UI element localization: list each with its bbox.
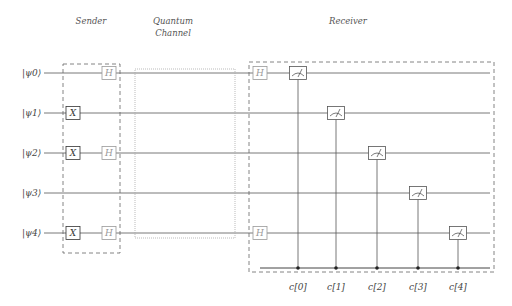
qubit-label: |ψ3⟩ [22, 188, 41, 199]
classical-bit-label: c[4] [449, 282, 467, 292]
bus-dot [375, 266, 379, 270]
qubit-label: |ψ1⟩ [22, 108, 41, 119]
quantum-circuit-diagram: Sender Quantum Channel Receiver |ψ0⟩|ψ1⟩… [0, 0, 512, 306]
section-title-channel-line1: Quantum [153, 16, 193, 26]
h-gate: H [253, 67, 267, 80]
qubit-label: |ψ4⟩ [22, 228, 41, 239]
h-gate: H [102, 67, 116, 80]
h-gate: H [253, 227, 267, 240]
svg-text:X: X [69, 148, 77, 158]
svg-text:H: H [104, 68, 113, 78]
receiver-box [249, 62, 494, 272]
measurement-gate: c[0] [289, 67, 307, 293]
h-gate: H [102, 147, 116, 160]
measurement-gate: c[3] [409, 187, 427, 293]
classical-bit-label: c[0] [289, 282, 307, 292]
svg-text:H: H [104, 228, 113, 238]
svg-text:X: X [69, 108, 77, 118]
h-gate: H [102, 227, 116, 240]
svg-text:H: H [104, 148, 113, 158]
qubit-labels: |ψ0⟩|ψ1⟩|ψ2⟩|ψ3⟩|ψ4⟩ [22, 68, 41, 239]
svg-text:H: H [255, 68, 264, 78]
classical-bit-label: c[2] [368, 282, 386, 292]
quantum-channel-box [135, 69, 235, 238]
section-title-receiver: Receiver [328, 16, 368, 26]
section-boxes [63, 62, 494, 272]
classical-bit-label: c[3] [409, 282, 427, 292]
bus-dot [296, 266, 300, 270]
measurement-gate: c[1] [327, 107, 345, 293]
section-title-sender: Sender [76, 16, 108, 26]
classical-bit-label: c[1] [327, 282, 345, 292]
section-title-channel-line2: Channel [155, 28, 191, 38]
bus-dot [334, 266, 338, 270]
measurement-gate: c[2] [368, 147, 386, 293]
bus-dot [456, 266, 460, 270]
x-gate: X [66, 227, 80, 240]
svg-text:X: X [69, 228, 77, 238]
measurement-gate: c[4] [449, 227, 467, 293]
bus-dot [416, 266, 420, 270]
qubit-label: |ψ2⟩ [22, 148, 41, 159]
x-gate: X [66, 147, 80, 160]
x-gate: X [66, 107, 80, 120]
measurements: c[0]c[1]c[2]c[3]c[4] [289, 67, 467, 293]
qubit-label: |ψ0⟩ [22, 68, 41, 79]
svg-text:H: H [255, 228, 264, 238]
